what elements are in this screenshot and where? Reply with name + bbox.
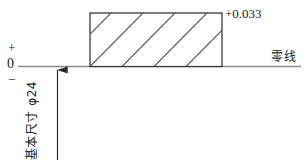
basic-size-label: 基本尺寸 φ24 bbox=[22, 78, 39, 164]
axis-label-zero: 0 bbox=[7, 57, 14, 71]
diagram-graphics bbox=[0, 0, 306, 168]
tolerance-zone-diagram: + 0 − +0.033 零线 基本尺寸 φ24 bbox=[0, 0, 306, 168]
axis-label-minus: − bbox=[8, 73, 15, 86]
upper-deviation-label: +0.033 bbox=[225, 6, 262, 22]
zero-line-label: 零线 bbox=[271, 47, 296, 64]
axis-label-plus: + bbox=[8, 41, 15, 54]
tolerance-zone-rect bbox=[90, 13, 222, 67]
